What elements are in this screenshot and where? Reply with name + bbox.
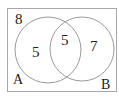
set-b-label: B xyxy=(101,77,110,92)
venn-diagram: 8 5 5 7 A B xyxy=(0,0,119,98)
universal-count: 8 xyxy=(15,11,23,27)
b-only-count: 7 xyxy=(90,38,98,54)
intersection-count: 5 xyxy=(61,32,69,48)
set-a-label: A xyxy=(13,72,24,87)
set-a-circle xyxy=(15,17,81,83)
set-b-circle xyxy=(50,17,114,81)
a-only-count: 5 xyxy=(32,44,40,60)
